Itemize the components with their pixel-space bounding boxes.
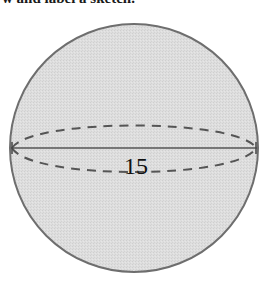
diameter-label: 15	[124, 153, 148, 179]
sphere-diagram: 15	[0, 0, 268, 282]
